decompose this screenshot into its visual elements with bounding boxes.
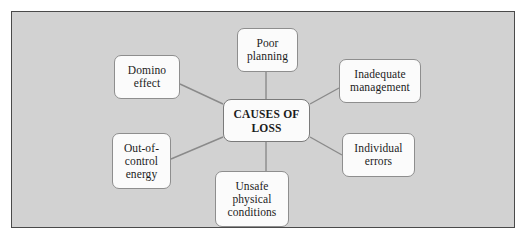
diagram-panel: CAUSES OF LOSS Poor planning Domino effe… xyxy=(11,11,515,228)
edge-domino-effect xyxy=(180,84,223,104)
node-poor-planning[interactable]: Poor planning xyxy=(237,28,298,72)
node-unsafe-physical-conditions[interactable]: Unsafe physical conditions xyxy=(215,171,289,227)
diagram-page: CAUSES OF LOSS Poor planning Domino effe… xyxy=(0,0,528,244)
edge-individual-errors xyxy=(310,137,342,155)
edge-inadequate-management xyxy=(310,88,339,104)
node-inadequate-management[interactable]: Inadequate management xyxy=(339,59,421,103)
node-domino-effect[interactable]: Domino effect xyxy=(114,55,180,99)
node-causes-of-loss[interactable]: CAUSES OF LOSS xyxy=(223,99,310,142)
edge-out-of-control-energy xyxy=(171,137,223,159)
node-individual-errors[interactable]: Individual errors xyxy=(342,133,415,177)
node-out-of-control-energy[interactable]: Out-of- control energy xyxy=(112,133,171,189)
